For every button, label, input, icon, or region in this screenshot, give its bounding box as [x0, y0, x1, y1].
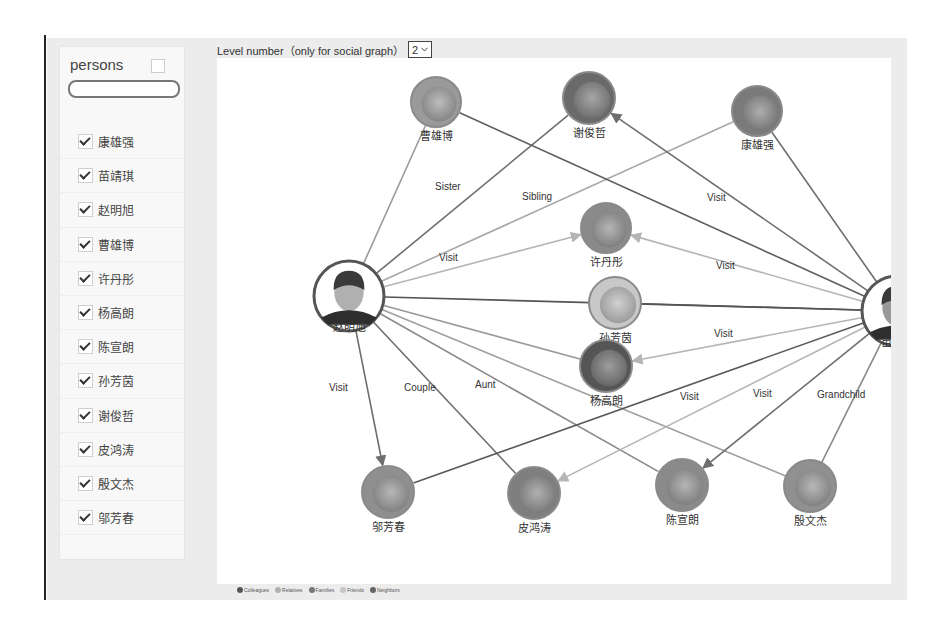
person-checkbox[interactable] [78, 271, 93, 286]
graph-node-yinwenjie[interactable]: 殷文杰 [784, 460, 836, 528]
graph-node-chenxuanlang[interactable]: 陈宣朗 [656, 459, 708, 527]
social-graph-canvas[interactable]: SisterSiblingVisitVisitCoupleAuntVisitVi… [217, 58, 891, 584]
person-checkbox[interactable] [78, 339, 93, 354]
person-checkbox[interactable] [78, 168, 93, 183]
graph-node-yanggaolang[interactable]: 杨高朗 [580, 340, 632, 408]
person-search-input[interactable] [68, 80, 180, 98]
legend-label: Neighbors [377, 587, 400, 593]
node-label: 曹雄博 [420, 129, 453, 143]
person-item[interactable]: 苗靖琪 [60, 159, 184, 193]
person-checkbox[interactable] [78, 373, 93, 388]
node-label: 康雄强 [741, 138, 774, 152]
legend-label: Colleagues [244, 587, 269, 593]
graph-edge[interactable] [822, 342, 881, 461]
person-checkbox[interactable] [78, 476, 93, 491]
edge-label: Visit [707, 192, 726, 203]
graph-edge[interactable] [373, 322, 516, 474]
person-item[interactable]: 康雄强 [60, 125, 184, 159]
graph-node-kangxiongqiang[interactable]: 康雄强 [732, 86, 782, 152]
edge-label: Sister [435, 181, 461, 192]
graph-node-zhaomingxu[interactable]: 赵明旭 [314, 261, 384, 334]
person-checkbox[interactable] [78, 202, 93, 217]
persons-sidebar: persons 康雄强苗靖琪赵明旭曹雄博许丹彤杨高朗陈宣朗孙芳茵谢俊哲皮鸿涛殷文… [59, 46, 185, 560]
legend-dot-icon [309, 587, 315, 593]
person-item[interactable]: 许丹彤 [60, 262, 184, 296]
level-value: 2 [412, 44, 418, 56]
graph-edge[interactable] [356, 330, 383, 465]
node-label: 杨高朗 [590, 394, 623, 408]
person-name: 谢俊哲 [98, 407, 134, 424]
graph-edge[interactable] [460, 113, 865, 297]
graph-node-xiejunzhe[interactable]: 谢俊哲 [563, 72, 615, 140]
person-item[interactable]: 孙芳茵 [60, 364, 184, 398]
graph-node-wufangchun[interactable]: 邬芳春 [362, 466, 414, 534]
person-name: 曹雄博 [98, 236, 134, 253]
graph-edge[interactable] [413, 323, 864, 483]
graph-edge[interactable] [703, 333, 870, 468]
legend-dot-icon [237, 587, 243, 593]
graph-edge[interactable] [642, 304, 862, 310]
person-item[interactable]: 邬芳春 [60, 501, 184, 535]
person-checkbox[interactable] [78, 408, 93, 423]
graph-node-caoxiongbo[interactable]: 曹雄博 [411, 77, 461, 143]
select-all-checkbox[interactable] [151, 59, 165, 73]
person-name: 殷文杰 [98, 475, 134, 492]
person-checkbox[interactable] [78, 134, 93, 149]
graph-edge[interactable] [381, 122, 733, 282]
legend-item[interactable]: Friends [340, 587, 364, 593]
node-label: 许丹彤 [590, 256, 623, 269]
person-name: 康雄强 [98, 133, 134, 150]
legend-dot-icon [340, 587, 346, 593]
graph-node-miaojingqi[interactable]: 苗靖琪 [862, 276, 891, 349]
person-checkbox[interactable] [78, 305, 93, 320]
edge-label: Couple [404, 382, 436, 393]
legend-item[interactable]: Colleagues [237, 587, 269, 593]
legend-label: Friends [347, 587, 364, 593]
person-name: 许丹彤 [98, 270, 134, 287]
person-checkbox[interactable] [78, 237, 93, 252]
level-select[interactable]: 2 [408, 41, 432, 58]
person-name: 陈宣朗 [98, 338, 134, 355]
edge-label: Visit [329, 382, 348, 393]
edge-label: Visit [680, 391, 699, 402]
edge-label: Visit [439, 252, 458, 263]
graph-edge[interactable] [772, 132, 877, 282]
graph-node-xudantong[interactable]: 许丹彤 [581, 203, 631, 269]
node-label: 殷文杰 [794, 514, 827, 528]
person-list: 康雄强苗靖琪赵明旭曹雄博许丹彤杨高朗陈宣朗孙芳茵谢俊哲皮鸿涛殷文杰邬芳春 [60, 125, 184, 535]
graph-svg[interactable]: SisterSiblingVisitVisitCoupleAuntVisitVi… [217, 58, 891, 584]
social-graph-app: persons 康雄强苗靖琪赵明旭曹雄博许丹彤杨高朗陈宣朗孙芳茵谢俊哲皮鸿涛殷文… [47, 38, 907, 600]
graph-edge[interactable] [383, 235, 581, 287]
person-item[interactable]: 曹雄博 [60, 228, 184, 262]
edge-label: Visit [753, 388, 772, 399]
person-name: 孙芳茵 [98, 372, 134, 389]
person-item[interactable]: 杨高朗 [60, 296, 184, 330]
person-name: 杨高朗 [98, 304, 134, 321]
edge-label: Visit [714, 328, 733, 339]
person-name: 邬芳春 [98, 509, 134, 526]
graph-node-sunfangyin[interactable]: 孙芳茵 [589, 277, 641, 345]
node-label: 赵明旭 [333, 320, 366, 334]
person-checkbox[interactable] [78, 510, 93, 525]
person-item[interactable]: 陈宣朗 [60, 330, 184, 364]
graph-edge[interactable] [631, 235, 863, 301]
graph-node-pihongtao[interactable]: 皮鸿涛 [508, 467, 560, 535]
legend-label: Families [316, 587, 335, 593]
node-label: 陈宣朗 [666, 513, 699, 527]
person-item[interactable]: 谢俊哲 [60, 399, 184, 433]
node-label: 谢俊哲 [573, 126, 606, 140]
person-item[interactable]: 皮鸿涛 [60, 433, 184, 467]
legend-item[interactable]: Neighbors [370, 587, 400, 593]
graph-edge[interactable] [633, 318, 863, 361]
legend-dot-icon [275, 587, 281, 593]
person-checkbox[interactable] [78, 442, 93, 457]
legend-item[interactable]: Families [309, 587, 335, 593]
legend-item[interactable]: Relatives [275, 587, 303, 593]
page-border-line [44, 35, 46, 600]
person-name: 皮鸿涛 [98, 441, 134, 458]
person-name: 苗靖琪 [98, 167, 134, 184]
graph-edge[interactable] [363, 126, 425, 264]
person-item[interactable]: 赵明旭 [60, 193, 184, 227]
person-item[interactable]: 殷文杰 [60, 467, 184, 501]
node-label: 苗靖琪 [881, 336, 892, 349]
